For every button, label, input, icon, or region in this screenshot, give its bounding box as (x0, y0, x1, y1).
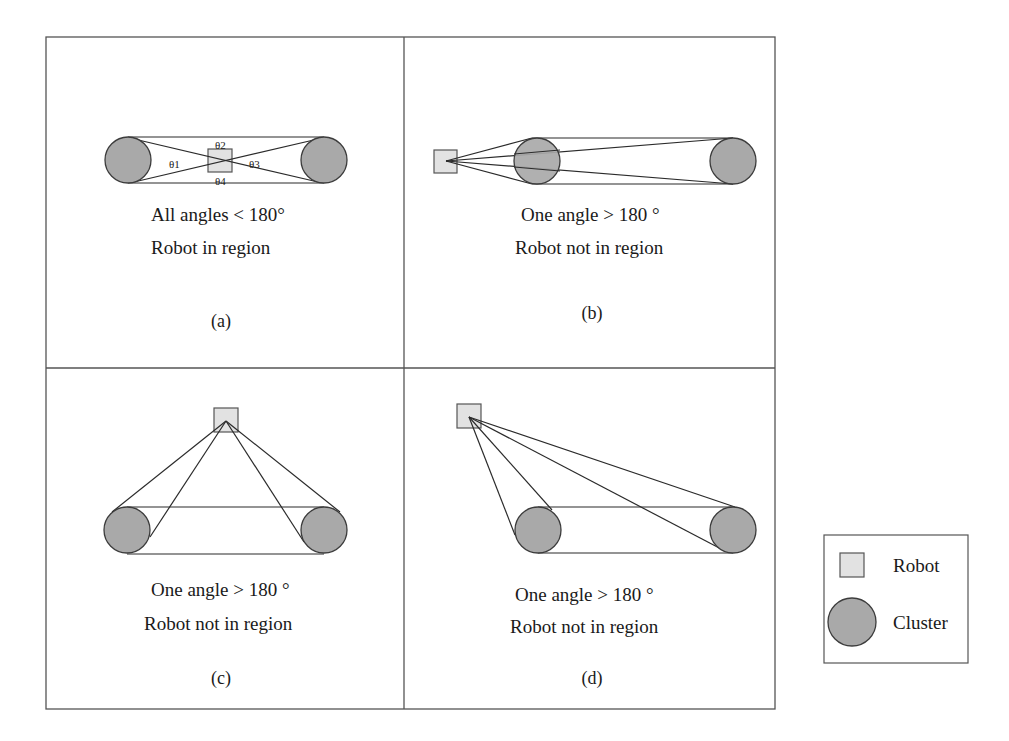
legend-cluster-label: Cluster (893, 612, 949, 633)
panel-b-condition: One angle > 180 ° (521, 204, 660, 225)
sight-line (150, 421, 226, 537)
angle-label-theta3: θ3 (249, 158, 260, 170)
legend-cluster-icon (828, 598, 876, 646)
panel-d-label: (d) (582, 668, 603, 689)
panel-a-result: Robot in region (151, 237, 271, 258)
panel-c-condition: One angle > 180 ° (151, 579, 290, 600)
legend-robot-label: Robot (893, 555, 940, 576)
legend: Robot Cluster (824, 535, 968, 663)
sight-line (112, 421, 226, 512)
sight-line (469, 417, 515, 535)
cluster-circle (515, 507, 561, 553)
panel-a-label: (a) (211, 311, 231, 332)
panel-d-result: Robot not in region (510, 616, 659, 637)
robot-square (457, 404, 481, 428)
sight-line (226, 421, 340, 512)
sight-line (469, 417, 725, 551)
angle-label-theta4: θ4 (215, 175, 226, 187)
panel-c-label: (c) (211, 668, 231, 689)
cluster-circle (514, 138, 560, 184)
panel-c: One angle > 180 ° Robot not in region (c… (104, 408, 347, 689)
cluster-circle (710, 507, 756, 553)
sight-line (226, 421, 304, 542)
panel-d-condition: One angle > 180 ° (515, 584, 654, 605)
cluster-circle (301, 507, 347, 553)
legend-robot-icon (840, 553, 864, 577)
panel-b: One angle > 180 ° Robot not in region (b… (434, 138, 756, 324)
cluster-circle (104, 507, 150, 553)
panel-a-condition: All angles < 180° (151, 204, 285, 225)
robot-region-diagram: θ1 θ2 θ3 θ4 All angles < 180° Robot in r… (0, 0, 1009, 741)
cluster-circle (710, 138, 756, 184)
panel-b-label: (b) (582, 303, 603, 324)
panel-c-result: Robot not in region (144, 613, 293, 634)
panel-a: θ1 θ2 θ3 θ4 All angles < 180° Robot in r… (105, 137, 347, 332)
cluster-circle (105, 137, 151, 183)
angle-label-theta1: θ1 (169, 158, 180, 170)
angle-label-theta2: θ2 (215, 139, 226, 151)
cluster-circle (301, 137, 347, 183)
panel-d: One angle > 180 ° Robot not in region (d… (457, 404, 756, 689)
panel-b-result: Robot not in region (515, 237, 664, 258)
